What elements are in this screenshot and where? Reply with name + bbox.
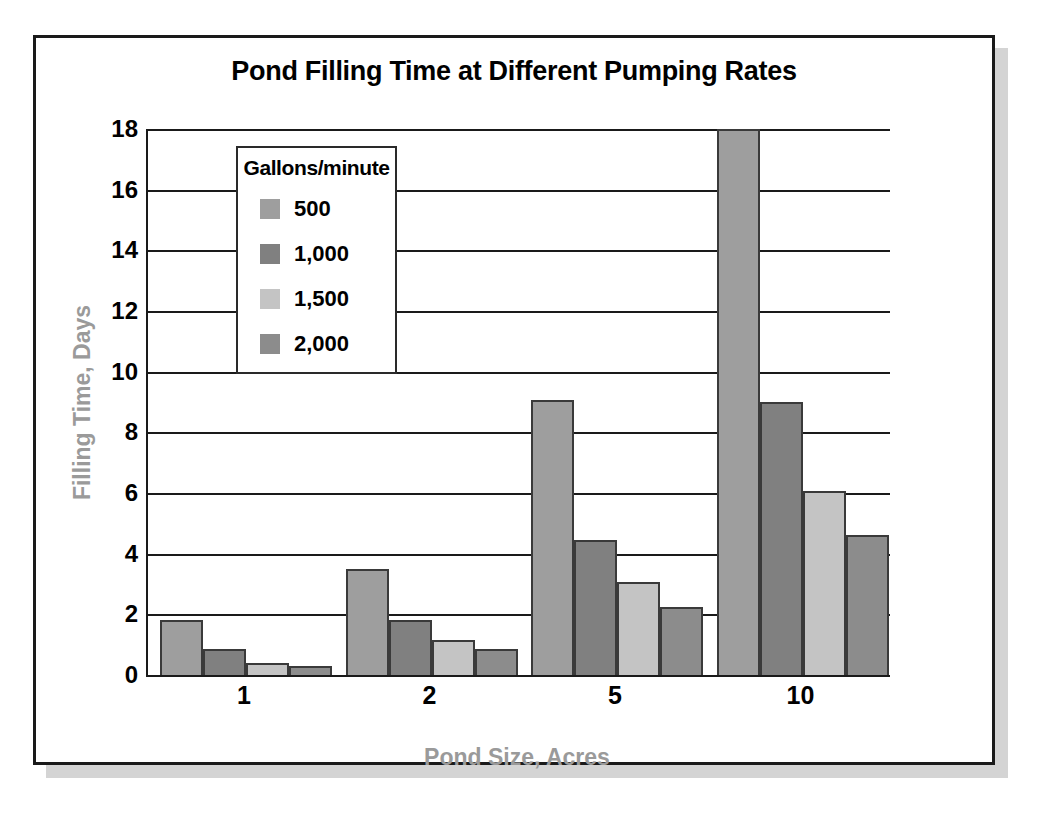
bar-group	[717, 129, 897, 675]
legend-item: 1,500	[238, 276, 395, 321]
y-axis-tick-label: 2	[125, 600, 138, 628]
bar	[475, 649, 518, 675]
x-axis-tick-label: 10	[787, 681, 815, 710]
bar-group	[531, 129, 711, 675]
legend-item-label: 500	[294, 196, 331, 222]
bar	[346, 569, 389, 675]
bar	[531, 400, 574, 675]
bar	[846, 535, 889, 675]
y-axis-label-text: Filling Time, Days	[70, 304, 97, 499]
legend-swatch-icon	[260, 199, 280, 219]
y-axis-tick-label: 0	[125, 661, 138, 689]
chart-title: Pond Filling Time at Different Pumping R…	[36, 56, 992, 87]
y-axis-tick-label: 14	[111, 236, 138, 264]
bar	[389, 620, 432, 675]
bar	[803, 491, 846, 675]
x-axis-tick-label: 5	[608, 681, 622, 710]
legend: Gallons/minute 5001,0001,5002,000	[236, 146, 397, 374]
legend-rows: 5001,0001,5002,000	[238, 186, 395, 366]
bar	[160, 620, 203, 675]
y-axis-tick-label: 4	[125, 540, 138, 568]
bar	[717, 129, 760, 675]
bar	[289, 666, 332, 675]
y-axis-tick-label: 8	[125, 418, 138, 446]
y-axis-tick-label: 18	[111, 115, 138, 143]
legend-swatch-icon	[260, 244, 280, 264]
x-axis-label: Pond Size, Acres	[146, 744, 888, 771]
legend-item: 2,000	[238, 321, 395, 366]
legend-swatch-icon	[260, 289, 280, 309]
bar	[246, 663, 289, 675]
x-axis-tick-label: 2	[423, 681, 437, 710]
y-axis-label: Filling Time, Days	[66, 129, 100, 675]
y-axis-tick-label: 16	[111, 176, 138, 204]
bar	[574, 540, 617, 675]
x-axis-tick-label: 1	[237, 681, 251, 710]
bar	[660, 607, 703, 675]
y-axis-tick-label: 12	[111, 297, 138, 325]
bar	[760, 402, 803, 675]
legend-item: 500	[238, 186, 395, 231]
legend-item: 1,000	[238, 231, 395, 276]
legend-item-label: 1,500	[294, 286, 349, 312]
y-axis-tick-label: 10	[111, 358, 138, 386]
legend-title: Gallons/minute	[238, 156, 395, 180]
bar	[203, 649, 246, 675]
legend-swatch-icon	[260, 334, 280, 354]
bar	[617, 582, 660, 675]
legend-item-label: 1,000	[294, 241, 349, 267]
bar	[432, 640, 475, 675]
chart-figure: Pond Filling Time at Different Pumping R…	[33, 35, 995, 765]
legend-item-label: 2,000	[294, 331, 349, 357]
y-axis-tick-label: 6	[125, 479, 138, 507]
